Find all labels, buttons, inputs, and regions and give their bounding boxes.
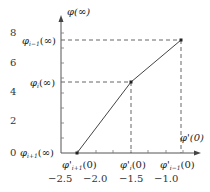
guide-lines: [61, 40, 181, 153]
x-annotation-right: φ'i−1(0): [160, 159, 195, 171]
y-tick-6: 6: [10, 57, 16, 68]
y-axis-arrow-icon: [59, 15, 64, 22]
x-annotation-mid: φ'i(0): [120, 159, 146, 171]
x-tick-neg2.5: −2.5: [48, 173, 72, 184]
data-point-top: [180, 39, 183, 42]
y-tick-4: 4: [10, 86, 16, 97]
y-annotation-mid: φi(∞): [30, 77, 55, 89]
x-annotation-left: φ'i+1(0): [62, 159, 97, 171]
y-annotation-top: φi−1(∞): [22, 35, 56, 47]
y-annotation-bottom: φi+1(∞): [20, 147, 54, 159]
x-axis-label: φ'(0): [180, 132, 204, 143]
x-tick-neg2.0: −2.0: [83, 173, 107, 184]
y-axis-label: φ(∞): [67, 6, 90, 17]
x-tick-neg1.0: −1.0: [154, 173, 178, 184]
data-point-bottom: [76, 152, 79, 155]
data-point-mid: [130, 81, 133, 84]
y-tick-8: 8: [10, 27, 16, 38]
y-tick-0: 0: [10, 147, 16, 158]
x-tick-neg1.5: −1.5: [119, 173, 143, 184]
chart: 8 6 4 2 0 −2.5 −2.0 −1.5 −1.0 φ(∞) φ'(0)…: [0, 0, 210, 192]
x-axis-arrow-icon: [194, 151, 201, 156]
y-tick-2: 2: [10, 115, 16, 126]
data-line: [77, 40, 181, 153]
